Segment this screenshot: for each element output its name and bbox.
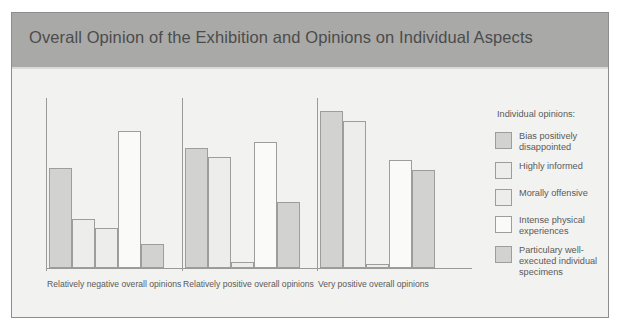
group-separator-3 (317, 98, 318, 271)
bar-group-1 (48, 93, 180, 268)
bar-g1-s1 (49, 168, 72, 268)
bar-g1-s3 (95, 228, 118, 268)
legend-item-3[interactable]: Morally offensive (495, 188, 620, 206)
x-axis-label-2: Relatively positive overall opinions (183, 279, 314, 289)
legend-swatch-icon (495, 189, 512, 206)
legend-title: Individual opinions: (497, 109, 620, 119)
legend-item-label: Particulary well-executed individual spe… (519, 245, 620, 277)
legend-swatch-icon (495, 216, 512, 233)
group-separator-2 (182, 98, 183, 271)
bar-g2-s5 (277, 202, 300, 268)
bar-g1-s4 (118, 131, 141, 268)
bar-g3-s4 (389, 160, 412, 268)
bar-g1-s5 (141, 244, 164, 268)
bar-group-3 (319, 93, 451, 268)
chart-header: Overall Opinion of the Exhibition and Op… (12, 13, 608, 69)
chart-legend: Individual opinions: Bias positively dis… (495, 109, 620, 286)
legend-item-label: Bias positively disappointed (519, 131, 620, 152)
chart-plot-area: Relatively negative overall opinions Rel… (35, 96, 483, 296)
legend-swatch-icon (495, 162, 512, 179)
legend-item-1[interactable]: Bias positively disappointed (495, 131, 620, 152)
legend-item-5[interactable]: Particulary well-executed individual spe… (495, 245, 620, 277)
bar-g3-s3 (366, 264, 389, 268)
legend-item-label: Morally offensive (519, 188, 588, 199)
chart-card: Overall Opinion of the Exhibition and Op… (11, 12, 609, 318)
legend-item-2[interactable]: Highly informed (495, 161, 620, 179)
bar-g1-s2 (72, 219, 95, 268)
bar-g2-s3 (231, 262, 254, 268)
bar-group-2 (184, 93, 316, 268)
page-title: Overall Opinion of the Exhibition and Op… (29, 28, 533, 47)
x-axis-label-3: Very positive overall opinions (318, 279, 429, 289)
legend-swatch-icon (495, 132, 512, 149)
bar-g3-s1 (320, 111, 343, 268)
legend-item-4[interactable]: Intense physical experiences (495, 215, 620, 236)
legend-swatch-icon (495, 246, 512, 263)
x-axis-label-1: Relatively negative overall opinions (47, 279, 181, 289)
group-separator-1 (46, 98, 47, 271)
bar-g3-s2 (343, 121, 366, 268)
legend-item-label: Highly informed (519, 161, 583, 172)
x-axis-baseline (46, 268, 472, 269)
bar-g3-s5 (412, 170, 435, 268)
bar-g2-s2 (208, 157, 231, 268)
bar-g2-s4 (254, 142, 277, 268)
legend-item-label: Intense physical experiences (519, 215, 620, 236)
bar-g2-s1 (185, 148, 208, 268)
